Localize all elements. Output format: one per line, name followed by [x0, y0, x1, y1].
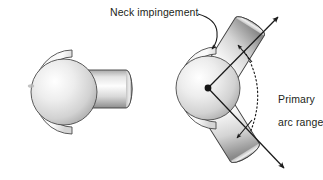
- primary-arc-range-line-1: Primary: [278, 93, 315, 105]
- femoral-head-ball-left: [28, 59, 97, 125]
- primary-arc-range-line-2: arc range: [278, 116, 323, 128]
- left-panel-neutral-position: [28, 50, 132, 134]
- neck-impingement-label: Neck impingement: [110, 7, 199, 19]
- primary-arc-range-label: Primary arc range: [266, 82, 323, 140]
- ball-surface-mark: [28, 84, 34, 88]
- figure-canvas: Neck impingement Primary arc range: [0, 0, 323, 180]
- pivot-center-dot: [205, 85, 212, 92]
- neck-impingement-leader-line: [198, 14, 217, 49]
